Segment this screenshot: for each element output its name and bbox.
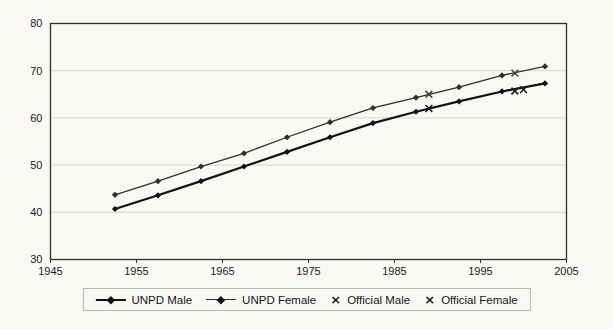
diamond-marker [542,80,548,86]
unpd-male-line-diamond-icon [95,299,125,301]
plot-border [51,24,567,260]
diamond-marker [542,63,548,69]
diamond-marker [112,206,118,212]
diamond-marker [370,105,376,111]
y-tick-label: 80 [30,17,42,29]
legend-label-unpd-male: UNPD Male [131,294,192,306]
diamond-marker [198,178,204,184]
legend-label-unpd-female: UNPD Female [242,294,316,306]
x-tick-label: 2005 [554,265,578,277]
series-unpd-female [112,63,548,198]
legend-item-official-female: × Official Female [424,293,517,306]
x-tick-label: 1955 [124,265,148,277]
legend-label-official-male: Official Male [347,294,410,306]
legend-item-unpd-male: UNPD Male [95,294,192,306]
line-chart: 304050607080 194519551965197519851995200… [0,0,613,329]
unpd-female-line [115,66,545,194]
diamond-marker [456,84,462,90]
diamond-marker [155,192,161,198]
y-tick-label: 70 [30,65,42,77]
y-tick-label: 50 [30,159,42,171]
x-tick-label: 1985 [382,265,406,277]
diamond-marker [499,88,505,94]
diamond-marker [112,192,118,198]
x-marker-icon: × [330,293,341,306]
diamond-marker [284,134,290,140]
unpd-male-line [115,83,545,209]
unpd-female-line-diamond-icon [206,299,236,300]
diamond-marker [413,95,419,101]
x-tick-label: 1975 [296,265,320,277]
x-tick-label: 1995 [468,265,492,277]
diamond-marker [413,109,419,115]
diamond-marker [284,149,290,155]
y-tick-label: 30 [30,253,42,265]
y-tick-label: 60 [30,112,42,124]
chart-page: 304050607080 194519551965197519851995200… [0,0,613,329]
x-tick-label: 1945 [38,265,62,277]
diamond-icon [107,296,115,304]
diamond-marker [241,163,247,169]
y-tick-label: 40 [30,206,42,218]
y-axis-labels: 304050607080 [30,17,42,265]
legend-label-official-female: Official Female [441,294,517,306]
legend-item-official-male: × Official Male [330,293,410,306]
diamond-marker [241,150,247,156]
diamond-marker [499,72,505,78]
x-marker-icon: × [424,293,435,306]
diamond-marker [327,134,333,140]
x-axis-labels: 1945195519651975198519952005 [38,260,578,277]
series-unpd-male [112,80,548,212]
diamond-icon [217,296,225,304]
x-tick-label: 1965 [210,265,234,277]
diamond-marker [155,178,161,184]
diamond-marker [370,120,376,126]
legend-item-unpd-female: UNPD Female [206,294,316,306]
data-series [112,63,548,212]
diamond-marker [456,98,462,104]
legend: UNPD Male UNPD Female × Official Male × … [82,288,530,311]
plot-frame [51,24,567,260]
diamond-marker [327,119,333,125]
diamond-marker [198,163,204,169]
